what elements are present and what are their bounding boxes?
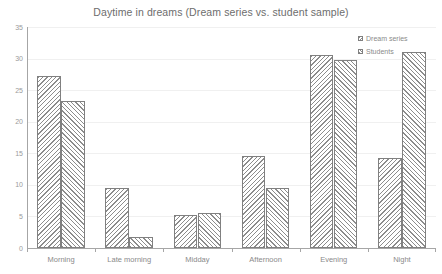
x-axis-tickmark	[232, 248, 233, 252]
bar-group	[232, 27, 300, 248]
legend-item-students[interactable]: Students	[358, 46, 438, 57]
y-axis-tick-label: 5	[3, 213, 23, 220]
bar[interactable]	[266, 188, 290, 248]
legend-item-dream-series[interactable]: Dream series	[358, 33, 438, 44]
bar[interactable]	[402, 52, 426, 248]
chart-title: Daytime in dreams (Dream series vs. stud…	[0, 6, 442, 18]
bar[interactable]	[61, 101, 85, 248]
bar-group	[163, 27, 231, 248]
y-axis-tick-label: 30	[3, 55, 23, 62]
bar[interactable]	[334, 60, 358, 248]
y-axis-tick-label: 20	[3, 118, 23, 125]
y-axis-tick-label: 10	[3, 181, 23, 188]
x-axis-tickmark	[435, 248, 436, 252]
legend-swatch-icon	[358, 36, 363, 41]
bar[interactable]	[198, 213, 222, 248]
y-axis-tick-label: 35	[3, 24, 23, 31]
x-axis-tick-label: Late morning	[95, 255, 163, 265]
x-axis-tickmark	[368, 248, 369, 252]
bar-chart: Daytime in dreams (Dream series vs. stud…	[0, 0, 442, 274]
x-axis-tick-label: Evening	[300, 255, 368, 265]
bars-layer	[27, 27, 436, 248]
x-axis-tickmarks	[27, 248, 436, 253]
x-axis-tickmark	[95, 248, 96, 252]
bar-group	[95, 27, 163, 248]
bar[interactable]	[105, 188, 129, 248]
bar[interactable]	[37, 76, 61, 248]
legend-item-label: Dream series	[366, 35, 408, 43]
bar[interactable]	[174, 215, 198, 248]
y-axis-tick-label: 15	[3, 150, 23, 157]
bar[interactable]	[242, 156, 266, 248]
bar-group	[368, 27, 436, 248]
y-axis-tick-label: 25	[3, 87, 23, 94]
x-axis-tickmark	[27, 248, 28, 252]
bar[interactable]	[378, 158, 402, 248]
y-axis-tick-labels: 05101520253035	[0, 27, 23, 248]
bar[interactable]	[310, 55, 334, 248]
x-axis-tick-label: Night	[368, 255, 436, 265]
chart-legend: Dream series Students	[358, 33, 438, 59]
bar-group	[300, 27, 368, 248]
x-axis-tickmark	[300, 248, 301, 252]
x-axis-tick-labels: MorningLate morningMiddayAfternoonEvenin…	[27, 255, 436, 269]
x-axis-tick-label: Morning	[27, 255, 95, 265]
x-axis-tick-label: Midday	[163, 255, 231, 265]
x-axis-tick-label: Afternoon	[232, 255, 300, 265]
legend-swatch-icon	[358, 49, 363, 54]
x-axis-tickmark	[163, 248, 164, 252]
bar[interactable]	[129, 237, 153, 248]
bar-group	[27, 27, 95, 248]
legend-item-label: Students	[366, 48, 394, 56]
y-axis-tick-label: 0	[3, 245, 23, 252]
